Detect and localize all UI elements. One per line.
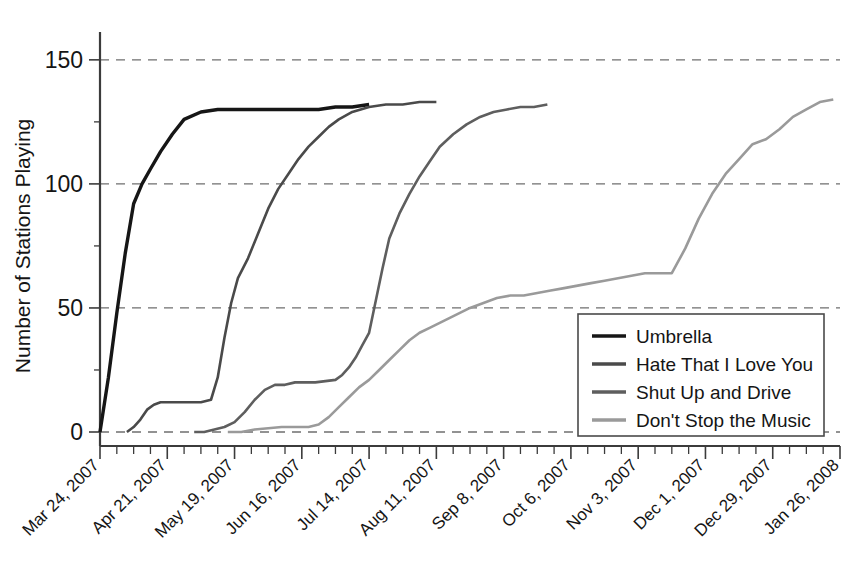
y-axis-title: Number of Stations Playing	[11, 119, 34, 373]
x-tick-label: Sep 8, 2007	[428, 455, 506, 533]
legend-label: Shut Up and Drive	[636, 382, 791, 403]
legend-label: Don't Stop the Music	[636, 410, 811, 431]
chart-figure: 050100150 Mar 24, 2007Apr 21, 2007May 19…	[0, 0, 860, 583]
line-chart-svg: 050100150 Mar 24, 2007Apr 21, 2007May 19…	[0, 0, 860, 583]
y-axis-tick-labels: 050100150	[45, 47, 83, 445]
y-tick-label: 0	[70, 419, 83, 445]
y-tick-label: 150	[45, 47, 83, 73]
series-line	[100, 105, 369, 432]
x-axis-tick-labels: Mar 24, 2007Apr 21, 2007May 19, 2007Jun …	[19, 455, 843, 541]
legend-label: Umbrella	[636, 326, 712, 347]
series-line	[127, 102, 436, 432]
x-axis-ticks	[100, 446, 840, 459]
y-tick-label: 100	[45, 171, 83, 197]
x-tick-label: Nov 3, 2007	[563, 455, 641, 533]
y-axis-ticks	[89, 60, 100, 432]
chart-legend[interactable]: UmbrellaHate That I Love YouShut Up and …	[578, 314, 824, 436]
legend-label: Hate That I Love You	[636, 354, 813, 375]
y-tick-label: 50	[57, 295, 83, 321]
series-line	[194, 105, 547, 432]
